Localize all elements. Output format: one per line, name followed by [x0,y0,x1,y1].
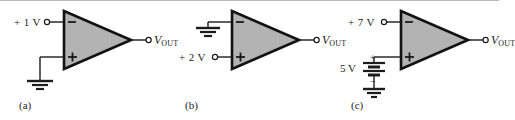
ground-icon [27,81,53,89]
circuit-a: + 1 V VOUT (a) [0,1,166,120]
input-voltage-label-a: + 1 V [14,17,41,28]
output-terminal-node [146,37,151,42]
input-voltage-label-c: + 7 V [348,17,375,28]
battery-voltage-label: 5 V [340,63,356,74]
battery-polarity-plus: + [370,52,376,63]
op-amp-triangle [64,11,131,69]
battery-polarity-minus: − [370,76,376,87]
vout-subscript: OUT [498,39,515,48]
input-terminal-node [212,54,217,59]
ground-icon [196,28,220,36]
ground-icon [363,89,385,97]
output-terminal-node [314,37,319,42]
caption-c: (c) [351,100,363,111]
caption-a: (a) [19,100,31,111]
output-terminal-node [483,37,488,42]
output-voltage-label-c: VOUT [491,34,515,48]
input-voltage-label-b: + 2 V [179,52,206,63]
battery-icon [363,63,385,75]
circuit-b: + 2 V VOUT (b) [166,1,332,120]
input-terminal-node [44,19,49,24]
op-amp-triangle [401,11,468,69]
circuit-c: + 7 V + 5 V − VOUT (c) [332,1,499,120]
input-terminal-node [381,19,386,24]
caption-b: (b) [185,100,198,111]
op-amp-triangle [232,11,299,69]
